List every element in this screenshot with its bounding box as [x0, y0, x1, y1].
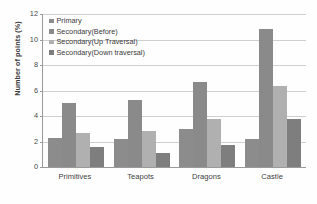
legend: PrimarySecondary(Before)Secondary(Up Tra… — [49, 16, 145, 57]
legend-label: Primary — [57, 17, 82, 24]
y-tickmark — [40, 167, 43, 168]
bar — [156, 153, 170, 167]
bar — [128, 100, 142, 167]
bar — [273, 86, 287, 167]
bar — [287, 119, 301, 167]
y-tick-label: 10 — [20, 36, 38, 43]
y-tick-label: 12 — [20, 10, 38, 17]
legend-swatch-icon — [49, 29, 54, 34]
y-tick-label: 6 — [20, 87, 38, 94]
legend-label: Secondary(Before) — [57, 28, 118, 35]
legend-swatch-icon — [49, 50, 54, 55]
bar — [179, 129, 193, 167]
bar — [193, 82, 207, 167]
bar — [259, 29, 273, 167]
x-tick-label: Castle — [239, 172, 305, 181]
legend-item: Secondary(Down traversal) — [49, 48, 145, 58]
bar — [62, 103, 76, 167]
y-tick-label: 2 — [20, 138, 38, 145]
bar — [245, 139, 259, 167]
bar-chart: Number of points (%) 024681012 Primitive… — [0, 0, 317, 204]
bar — [142, 131, 156, 167]
y-tick-label: 0 — [20, 163, 38, 170]
y-tick-label: 8 — [20, 61, 38, 68]
bar — [114, 139, 128, 167]
legend-item: Secondary(Up Traversal) — [49, 37, 145, 47]
x-tick-label: Dragons — [174, 172, 240, 181]
legend-label: Secondary(Down traversal) — [57, 49, 145, 56]
bar-group — [175, 14, 241, 167]
legend-label: Secondary(Up Traversal) — [57, 38, 138, 45]
bar — [76, 133, 90, 167]
y-axis-tick-labels: 024681012 — [20, 14, 38, 167]
legend-item: Secondary(Before) — [49, 27, 145, 37]
bar — [90, 147, 104, 167]
legend-item: Primary — [49, 16, 145, 26]
bar — [221, 145, 235, 167]
legend-swatch-icon — [49, 40, 54, 45]
x-axis-tick-labels: PrimitivesTeapotsDragonsCastle — [42, 172, 305, 181]
legend-swatch-icon — [49, 19, 54, 24]
x-tick-label: Teapots — [108, 172, 174, 181]
y-tick-label: 4 — [20, 112, 38, 119]
bar-group — [240, 14, 306, 167]
bar — [48, 138, 62, 167]
x-tick-label: Primitives — [42, 172, 108, 181]
bar — [207, 119, 221, 167]
